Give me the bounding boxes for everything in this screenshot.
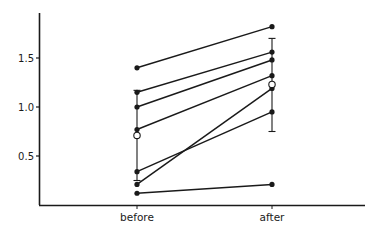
mean-marker-before xyxy=(134,132,140,138)
x-ticks: beforeafter xyxy=(120,205,285,223)
data-point xyxy=(134,182,139,187)
paired-line-chart: 0.51.01.5 beforeafter xyxy=(0,0,384,236)
data-point xyxy=(134,65,139,70)
connector-line xyxy=(137,184,272,193)
x-category-label-before: before xyxy=(120,211,154,223)
x-category-label-after: after xyxy=(260,211,286,223)
y-tick-label: 1.5 xyxy=(18,53,34,64)
mean-error-bars xyxy=(134,38,276,180)
series-subject-5 xyxy=(134,109,274,174)
connector-line xyxy=(137,52,272,92)
y-tick-label: 1.0 xyxy=(18,102,34,113)
series-lines xyxy=(134,24,274,196)
series-subject-1 xyxy=(134,24,274,70)
series-subject-4 xyxy=(134,73,274,132)
mean-marker-after xyxy=(269,81,275,87)
series-subject-7 xyxy=(134,182,274,196)
data-point xyxy=(134,191,139,196)
y-ticks: 0.51.01.5 xyxy=(18,53,40,162)
y-tick-label: 0.5 xyxy=(18,151,34,162)
connector-line xyxy=(137,27,272,68)
series-subject-2 xyxy=(134,50,274,95)
axes xyxy=(39,13,365,206)
data-point xyxy=(269,24,274,29)
data-point xyxy=(269,182,274,187)
